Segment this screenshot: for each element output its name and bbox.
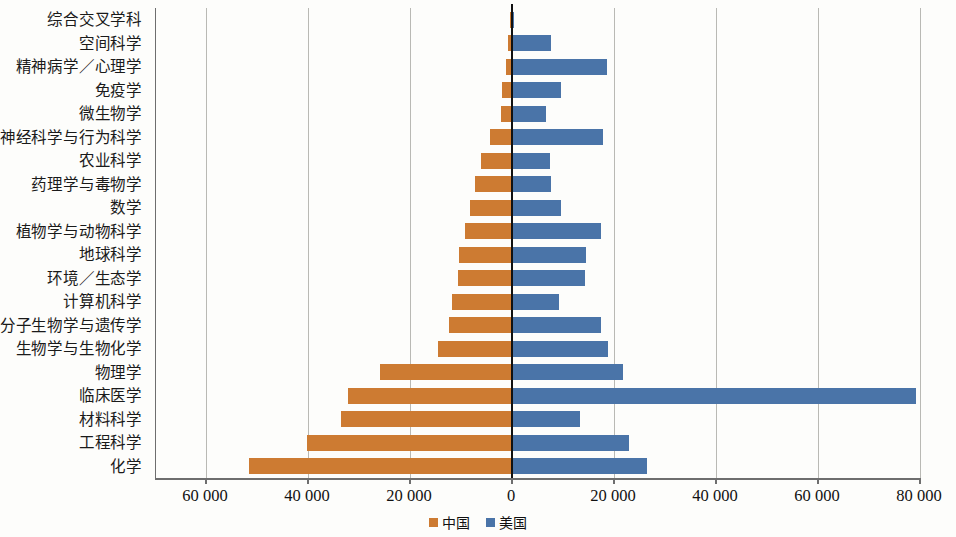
chart-legend: 中国美国	[0, 512, 956, 532]
bar-usa	[512, 82, 561, 98]
bar-row	[156, 337, 921, 361]
bar-row	[156, 384, 921, 408]
x-axis-tick	[511, 478, 513, 484]
x-axis-tick	[307, 478, 309, 484]
category-label: 数学	[0, 196, 148, 220]
bar-row	[156, 243, 921, 267]
x-axis-tick	[715, 478, 717, 484]
category-label: 微生物学	[0, 102, 148, 126]
bar-chart: 综合交叉学科空间科学精神病学／心理学免疫学微生物学神经科学与行为科学农业科学药理…	[0, 0, 956, 537]
legend-swatch-icon	[429, 518, 438, 527]
bar-china	[475, 176, 512, 192]
bar-china	[438, 341, 512, 357]
category-axis-labels: 综合交叉学科空间科学精神病学／心理学免疫学微生物学神经科学与行为科学农业科学药理…	[0, 8, 148, 478]
x-axis-tick-label: 20 000	[590, 486, 635, 506]
x-axis-tick-label: 40 000	[692, 486, 737, 506]
category-label: 物理学	[0, 361, 148, 385]
category-label: 综合交叉学科	[0, 8, 148, 32]
bar-usa	[512, 388, 916, 404]
bar-row	[156, 431, 921, 455]
category-label: 药理学与毒物学	[0, 173, 148, 197]
bar-row	[156, 55, 921, 79]
bar-row	[156, 126, 921, 150]
legend-label: 中国	[442, 512, 470, 532]
bar-row	[156, 220, 921, 244]
bar-row	[156, 267, 921, 291]
bar-usa	[512, 317, 601, 333]
bar-usa	[512, 106, 546, 122]
bar-row	[156, 361, 921, 385]
legend-item[interactable]: 美国	[486, 512, 527, 532]
bar-china	[341, 411, 512, 427]
category-label: 环境／生态学	[0, 267, 148, 291]
x-axis-tick	[613, 478, 615, 484]
bar-china	[470, 200, 512, 216]
category-label: 临床医学	[0, 384, 148, 408]
bar-china	[249, 458, 512, 474]
bar-row	[156, 455, 921, 479]
bar-china	[380, 364, 512, 380]
category-label: 化学	[0, 455, 148, 479]
x-axis-tick-label: 60 000	[182, 486, 227, 506]
x-axis-tick-label: 0	[507, 486, 515, 506]
bar-usa	[512, 176, 551, 192]
bar-row	[156, 149, 921, 173]
bar-usa	[512, 247, 586, 263]
bar-usa	[512, 294, 559, 310]
x-axis-tick	[205, 478, 207, 484]
category-label: 材料科学	[0, 408, 148, 432]
legend-label: 美国	[499, 512, 527, 532]
x-axis-line	[155, 478, 921, 480]
category-label: 免疫学	[0, 79, 148, 103]
x-axis-tick-label: 20 000	[386, 486, 431, 506]
legend-item[interactable]: 中国	[429, 512, 470, 532]
bar-usa	[512, 223, 601, 239]
category-label: 生物学与生物化学	[0, 337, 148, 361]
bar-row	[156, 408, 921, 432]
bar-row	[156, 102, 921, 126]
bar-china	[465, 223, 512, 239]
bar-china	[348, 388, 512, 404]
category-label: 植物学与动物科学	[0, 220, 148, 244]
bar-usa	[512, 341, 608, 357]
x-axis-tick	[409, 478, 411, 484]
x-axis-tick-label: 60 000	[794, 486, 839, 506]
x-axis-tick-label: 40 000	[284, 486, 329, 506]
bar-row	[156, 196, 921, 220]
category-label: 分子生物学与遗传学	[0, 314, 148, 338]
bar-row	[156, 290, 921, 314]
bar-row	[156, 8, 921, 32]
bar-china	[481, 153, 512, 169]
bar-usa	[512, 435, 629, 451]
bar-row	[156, 32, 921, 56]
bar-china	[490, 129, 512, 145]
category-label: 空间科学	[0, 32, 148, 56]
legend-swatch-icon	[486, 518, 495, 527]
bar-rows	[156, 8, 921, 478]
bar-usa	[512, 129, 603, 145]
bar-row	[156, 173, 921, 197]
category-label: 地球科学	[0, 243, 148, 267]
category-label: 神经科学与行为科学	[0, 126, 148, 150]
bar-usa	[512, 59, 607, 75]
x-axis-tick	[817, 478, 819, 484]
x-axis-tick	[919, 478, 921, 484]
bar-usa	[512, 200, 561, 216]
bar-row	[156, 79, 921, 103]
bar-usa	[512, 153, 550, 169]
bar-usa	[512, 458, 647, 474]
bar-usa	[512, 411, 580, 427]
bar-china	[449, 317, 512, 333]
zero-axis-line	[511, 4, 513, 478]
category-label: 计算机科学	[0, 290, 148, 314]
bar-china	[307, 435, 512, 451]
bar-china	[458, 270, 512, 286]
bar-china	[459, 247, 512, 263]
x-axis-tick-label: 80 000	[896, 486, 941, 506]
bar-usa	[512, 35, 551, 51]
plot-area	[155, 8, 921, 478]
category-label: 农业科学	[0, 149, 148, 173]
bar-usa	[512, 364, 623, 380]
bar-row	[156, 314, 921, 338]
category-label: 精神病学／心理学	[0, 55, 148, 79]
